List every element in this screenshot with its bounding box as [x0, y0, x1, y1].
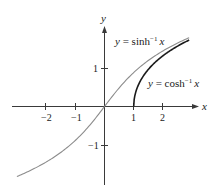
tick-label-x-1: 1	[131, 112, 136, 123]
x-axis-label: x	[201, 100, 207, 112]
cosh-label: y = cosh−1x	[147, 77, 199, 89]
tick-label-x-2: 2	[160, 112, 165, 123]
sinh-label-sup: −1	[150, 35, 158, 43]
cosh-label-sup: −1	[185, 77, 193, 85]
cosh-inverse-curve	[134, 40, 189, 106]
y-axis-label: y	[100, 12, 106, 24]
cosh-label-var: x	[193, 77, 199, 89]
chart: −2 −1 1 2 1 −1 x y y = sinh−1x y = cosh−…	[0, 0, 221, 185]
cosh-label-eq: = cosh	[153, 77, 185, 89]
sinh-label: y = sinh−1x	[114, 35, 164, 47]
sinh-label-var: x	[158, 35, 164, 47]
tick-label-y-m1: −1	[88, 140, 99, 151]
tick-label-x-m2: −2	[41, 112, 52, 123]
tick-label-x-m1: −1	[71, 112, 82, 123]
tick-label-y-1: 1	[93, 63, 98, 74]
sinh-inverse-curve	[17, 38, 189, 177]
y-axis-arrow-icon	[102, 26, 107, 33]
sinh-label-eq: = sinh	[120, 35, 151, 47]
x-axis-arrow-icon	[192, 104, 199, 109]
